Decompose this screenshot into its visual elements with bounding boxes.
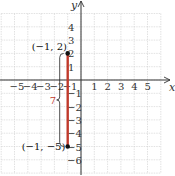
- y-tick-label: 4: [68, 22, 74, 33]
- y-tick-label: −3: [67, 115, 82, 126]
- y-tick-label: −2: [67, 102, 82, 113]
- data-series: (−1, 2)(−1, −5): [22, 41, 70, 151]
- x-tick-label: 4: [131, 81, 137, 92]
- y-axis-label: y: [70, 0, 78, 12]
- point-label: (−1, 2): [32, 41, 67, 52]
- point-label: (−1, −5): [22, 141, 66, 152]
- coordinate-plane: xy −5−4−3−2−1123454321−1−2−3−4−5−6 (−1, …: [0, 0, 175, 176]
- y-tick-label: −4: [67, 128, 82, 139]
- y-tick-label: −6: [67, 155, 82, 166]
- x-tick-label: 3: [118, 81, 124, 92]
- y-tick-label: 1: [68, 62, 74, 73]
- x-tick-label: 2: [105, 81, 111, 92]
- y-tick-label: 3: [68, 35, 74, 46]
- y-tick-label: −1: [67, 88, 82, 99]
- x-tick-label: 5: [145, 81, 151, 92]
- distance-label: 7: [50, 95, 56, 106]
- annotations: 7: [50, 53, 64, 146]
- point-marker: [65, 144, 70, 149]
- x-axis-label: x: [169, 81, 175, 94]
- x-tick-label: 1: [91, 81, 97, 92]
- brace-icon: [57, 53, 64, 146]
